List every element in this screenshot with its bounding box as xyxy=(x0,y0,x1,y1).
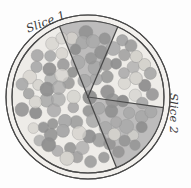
topping-dot xyxy=(72,126,86,140)
topping-dot xyxy=(86,35,100,49)
topping-dot xyxy=(101,71,113,83)
topping-dot xyxy=(119,135,130,146)
topping-dot xyxy=(123,107,134,118)
topping-dot xyxy=(136,122,147,133)
topping-dot xyxy=(16,78,28,90)
topping-dot xyxy=(52,81,66,95)
topping-dot xyxy=(137,97,149,109)
topping-dot xyxy=(29,96,42,109)
topping-dot xyxy=(60,151,74,165)
topping-dot xyxy=(56,48,68,60)
topping-dot xyxy=(130,50,142,62)
topping-dot xyxy=(42,138,56,152)
topping-dot xyxy=(119,68,130,79)
topping-dot xyxy=(144,67,156,79)
topping-dot xyxy=(38,122,49,133)
topping-dot xyxy=(85,156,97,168)
pizza-figure: Slice 1Slice 2 xyxy=(0,0,191,188)
topping-dot xyxy=(93,133,107,147)
topping-dot xyxy=(55,68,69,82)
topping-dot xyxy=(118,77,130,89)
topping-dot xyxy=(111,117,122,128)
topping-dot xyxy=(99,152,110,163)
topping-dot xyxy=(31,61,42,72)
topping-dot xyxy=(43,63,56,76)
topping-dot xyxy=(57,124,70,137)
topping-dot xyxy=(130,72,143,85)
topping-dot xyxy=(67,90,80,103)
topping-dot xyxy=(101,85,115,99)
topping-dot xyxy=(45,50,56,61)
topping-dot xyxy=(48,118,59,129)
topping-dot xyxy=(130,140,141,151)
pizza-slice-diagram: Slice 1Slice 2 xyxy=(0,0,191,188)
topping-dot xyxy=(15,103,29,117)
topping-dot xyxy=(99,33,111,45)
label-slice2: Slice 2 xyxy=(167,93,181,134)
topping-dot xyxy=(28,123,39,134)
topping-dot xyxy=(85,53,97,65)
topping-dot xyxy=(146,88,158,100)
topping-dot xyxy=(31,49,43,61)
topping-dot xyxy=(125,40,137,52)
topping-dot xyxy=(108,128,121,141)
topping-dot xyxy=(145,106,157,118)
topping-dot xyxy=(76,141,89,154)
topping-dot xyxy=(70,44,81,55)
